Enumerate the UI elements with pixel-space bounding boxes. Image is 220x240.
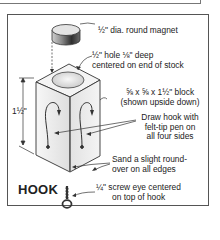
- screw-eye-icon: [63, 186, 72, 208]
- callout-block: ⅝ x ⅝ x 1½" block (shown upside down): [110, 88, 210, 107]
- diagram-title: HOOK: [18, 182, 58, 197]
- callout-magnet: ½" dia. round magnet: [98, 26, 178, 36]
- height-dimension-label: 1½": [12, 106, 27, 116]
- callout-block-line-2: (shown upside down): [110, 98, 210, 108]
- callout-hole-line-2: centered on end of stock: [92, 61, 184, 71]
- magnet-icon: [52, 25, 80, 46]
- callout-draw-hook: Draw hook with felt-tip pen on all four …: [134, 113, 206, 142]
- callout-magnet-line-1: ½" dia. round magnet: [98, 26, 178, 36]
- callout-screw-eye: ¼" screw eye centered on top of hook: [96, 183, 181, 202]
- callout-hole: ½" hole ⅛" deep centered on end of stock: [92, 51, 184, 70]
- callout-screw-eye-line-2: on top of hook: [96, 193, 181, 203]
- dimension-line: [19, 78, 34, 154]
- callout-sand: Sand a slight round- over on all edges: [112, 155, 187, 174]
- callout-draw-line-3: all four sides: [134, 132, 206, 142]
- callout-sand-line-2: over on all edges: [112, 165, 187, 175]
